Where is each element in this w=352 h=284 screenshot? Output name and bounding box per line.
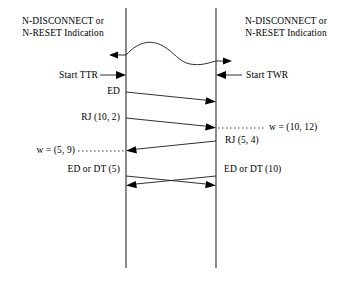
ed-or-dt-5-arrowhead-icon: [205, 181, 216, 188]
start-ttr-arrowhead-icon: [116, 71, 126, 79]
ed-or-dt-10-stem: [132, 176, 216, 184]
start-twr-arrow-group: [216, 71, 242, 79]
crossing-messages-group: [126, 176, 216, 188]
header-left-line1: N-DISCONNECT or: [6, 16, 120, 28]
ed-or-dt-10-arrowhead-icon: [126, 181, 137, 188]
disconnect-wave-group: [109, 42, 232, 64]
header-right-line1: N-DISCONNECT or: [224, 16, 348, 28]
sequence-diagram: N-DISCONNECT or N-RESET Indication N-DIS…: [0, 0, 352, 284]
rj-5-4-message-group: [78, 141, 216, 154]
label-w-5-9: w = (5, 9): [8, 145, 75, 157]
label-rj-5-4: RJ (5, 4): [225, 135, 305, 147]
header-left-line2: N-RESET Indication: [6, 28, 120, 40]
start-ttr-arrow-group: [100, 71, 126, 79]
wave-right-arrowhead-icon: [223, 57, 232, 64]
ed-stem: [126, 92, 210, 101]
start-twr-arrowhead-icon: [216, 71, 226, 79]
wave-left-arrowhead-icon: [109, 51, 118, 58]
header-right: N-DISCONNECT or N-RESET Indication: [224, 16, 348, 39]
rj-10-2-stem: [126, 118, 210, 127]
header-right-line2: N-RESET Indication: [224, 28, 348, 40]
ed-message-group: [126, 92, 216, 105]
label-start-twr: Start TWR: [246, 70, 336, 82]
rj-5-4-arrowhead-icon: [126, 146, 137, 153]
rj-10-2-message-group: [126, 118, 266, 131]
label-ed-or-dt-5: ED or DT (5): [20, 164, 120, 176]
label-ed: ED: [44, 86, 120, 98]
rj-10-2-arrowhead-icon: [205, 123, 216, 130]
ed-or-dt-5-stem: [126, 176, 210, 184]
label-ed-or-dt-10: ED or DT (10): [224, 164, 324, 176]
ed-arrowhead-icon: [205, 97, 216, 104]
rj-5-4-stem: [132, 141, 216, 150]
label-w-10-12: w = (10, 12): [269, 122, 349, 134]
label-rj-10-2: RJ (10, 2): [24, 112, 120, 124]
header-left: N-DISCONNECT or N-RESET Indication: [6, 16, 120, 39]
wave-path: [126, 42, 216, 64]
label-start-ttr: Start TTR: [14, 70, 98, 82]
